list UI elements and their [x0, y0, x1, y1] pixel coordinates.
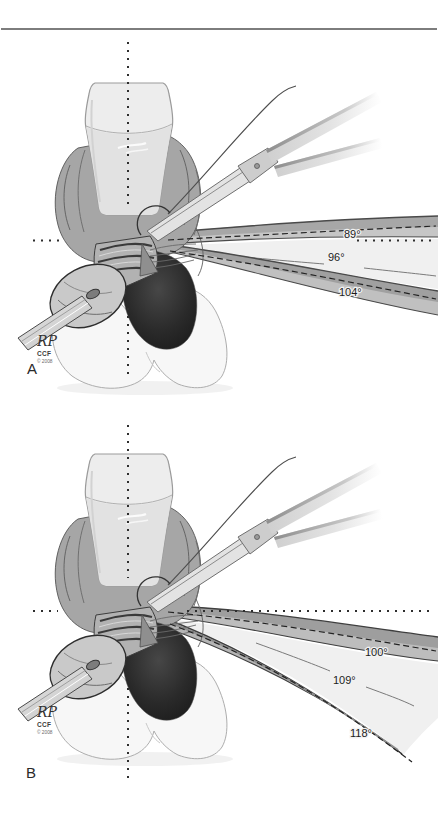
angle-label-middle-a: 96°: [328, 251, 345, 263]
panel-b-anatomy: [18, 454, 383, 766]
panel-label-b: B: [26, 764, 36, 781]
angle-label-upper-a: 89°: [344, 228, 361, 240]
panel-b: 100° 109° 118° B: [18, 425, 438, 781]
angle-label-middle-b: 109°: [333, 674, 356, 686]
panel-a-anatomy: [18, 83, 383, 395]
angle-label-lower-b: 118°: [350, 727, 372, 739]
panel-a: 89° 96° 104° A: [18, 42, 438, 395]
figure-page: RP CCF © 2008: [0, 0, 438, 820]
panel-label-a: A: [27, 360, 37, 377]
angle-label-upper-b: 100°: [365, 646, 388, 658]
figure-canvas: RP CCF © 2008: [0, 0, 438, 820]
angle-label-lower-a: 104°: [339, 286, 362, 298]
